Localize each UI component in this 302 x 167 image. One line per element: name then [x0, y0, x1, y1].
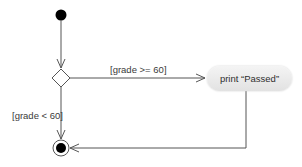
- guard-false-label: [grade < 60]: [12, 110, 63, 121]
- edge-activity-to-final: [70, 91, 246, 148]
- activity-label: print “Passed”: [220, 73, 279, 84]
- activity-node: print “Passed”: [207, 66, 292, 91]
- final-node-inner: [56, 143, 66, 153]
- initial-node: [56, 10, 67, 21]
- decision-node: [52, 69, 70, 87]
- guard-true-label: [grade >= 60]: [110, 64, 167, 75]
